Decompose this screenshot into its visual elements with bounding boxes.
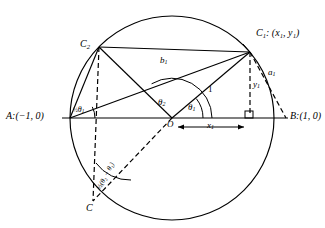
- x1-arrow-left: [178, 124, 184, 129]
- label-b1: b1: [160, 56, 167, 66]
- label-point-a: A:(−1, 0): [6, 111, 44, 121]
- label-a-text: A:(−1, 0): [6, 110, 44, 121]
- label-point-o: O: [167, 120, 174, 129]
- label-a1-sub: 1: [273, 71, 276, 77]
- label-c-text: C: [86, 202, 93, 213]
- label-c1-base: C: [256, 27, 263, 38]
- label-c1-coords: : (x₁, y₁): [266, 27, 299, 38]
- label-theta2: θ2: [158, 98, 165, 108]
- label-c2-base: C: [80, 38, 87, 49]
- label-half-theta1-sub: 1: [82, 108, 85, 114]
- label-theta1: θ1: [188, 103, 195, 113]
- label-c2-sub: 2: [87, 43, 90, 50]
- drop-c2-to-c-dashed: [93, 47, 99, 201]
- x1-arrow-right: [238, 124, 244, 129]
- label-y1: y1: [253, 80, 260, 90]
- label-x1-sub: 1: [211, 124, 214, 130]
- label-a1: a1: [268, 68, 275, 78]
- label-b1-sub: 1: [165, 59, 168, 65]
- label-point-c: C: [86, 203, 93, 213]
- label-theta1-sub: 1: [192, 106, 195, 112]
- label-radius-one: 1: [208, 85, 213, 94]
- c1-vertex-tick: [243, 44, 250, 52]
- label-point-c2: C2: [80, 39, 90, 50]
- label-half-theta1: ½θ1: [73, 106, 84, 115]
- label-y1-sub: 1: [257, 83, 260, 89]
- chord-c2-c1: [99, 47, 250, 52]
- label-point-b: B:(1, 0): [290, 111, 321, 121]
- angle-arc-theta1: [196, 99, 203, 118]
- label-radius-one-text: 1: [208, 84, 213, 94]
- geometry-figure: A:(−1, 0) B:(1, 0) O C1: (x₁, y₁) C2 C b…: [0, 0, 325, 228]
- right-angle-marker: [245, 111, 253, 118]
- label-point-c1: C1: (x₁, y₁): [256, 28, 299, 39]
- label-b-text: B:(1, 0): [290, 110, 321, 121]
- ray-o-to-c-dashed: [93, 118, 172, 201]
- label-theta2-sub: 2: [162, 101, 165, 107]
- label-x1: x1: [207, 121, 214, 131]
- label-o-text: O: [167, 119, 174, 129]
